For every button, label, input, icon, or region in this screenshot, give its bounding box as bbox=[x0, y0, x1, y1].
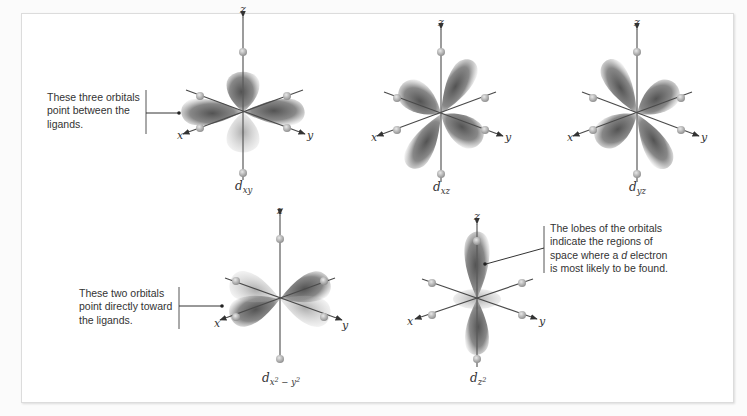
ligand-icon bbox=[239, 48, 247, 56]
ligand-icon bbox=[283, 124, 291, 132]
z-axis-label: z bbox=[239, 3, 246, 16]
ligand-icon bbox=[196, 92, 204, 100]
orbital-dz2: z x y bbox=[407, 210, 546, 367]
ligand-icon bbox=[283, 92, 291, 100]
orbital-label-dx2-y2: dx2 − y2 bbox=[262, 371, 300, 387]
y-axis-label: y bbox=[538, 315, 546, 328]
orbital-label-dyz: dyz bbox=[629, 180, 646, 196]
orbital-diagram: z x y z x y z x y bbox=[0, 0, 747, 416]
z-axis-label: z bbox=[437, 16, 444, 29]
y-axis-label: y bbox=[700, 131, 708, 144]
ligand-icon bbox=[196, 124, 204, 132]
callout-between-leader bbox=[146, 90, 181, 134]
orbital-label-dz2: dz2 bbox=[470, 371, 486, 387]
callout-lobes-leader bbox=[483, 226, 544, 273]
orbital-dxy: z x y bbox=[177, 3, 314, 180]
y-axis-label: y bbox=[306, 129, 314, 142]
z-axis-label: z bbox=[276, 204, 283, 217]
x-axis-label: x bbox=[371, 131, 378, 144]
x-axis-label: x bbox=[214, 317, 221, 330]
y-axis-label: y bbox=[341, 319, 349, 332]
orbital-label-dxy: dxy bbox=[235, 179, 252, 195]
y-axis-label: y bbox=[504, 131, 512, 144]
x-axis-label: x bbox=[177, 129, 184, 142]
lobe bbox=[181, 99, 243, 126]
orbital-dx2-y2: z x y bbox=[214, 204, 349, 363]
ligand-icon bbox=[239, 169, 247, 177]
callout-toward-ligands: These two orbitals point directly toward… bbox=[79, 287, 172, 327]
x-axis-label: x bbox=[407, 315, 414, 328]
z-axis-label: z bbox=[633, 16, 640, 29]
lobe bbox=[243, 99, 305, 126]
callout-lobes: The lobes of the orbitals indicate the r… bbox=[550, 222, 668, 275]
z-axis-label: z bbox=[473, 210, 480, 223]
orbital-dxz: z x y bbox=[371, 16, 512, 182]
orbital-dyz: z x y bbox=[567, 16, 708, 182]
callout-between-ligands: These three orbitals point between the l… bbox=[47, 91, 140, 131]
x-axis-label: x bbox=[567, 131, 574, 144]
orbital-label-dxz: dxz bbox=[433, 180, 450, 196]
